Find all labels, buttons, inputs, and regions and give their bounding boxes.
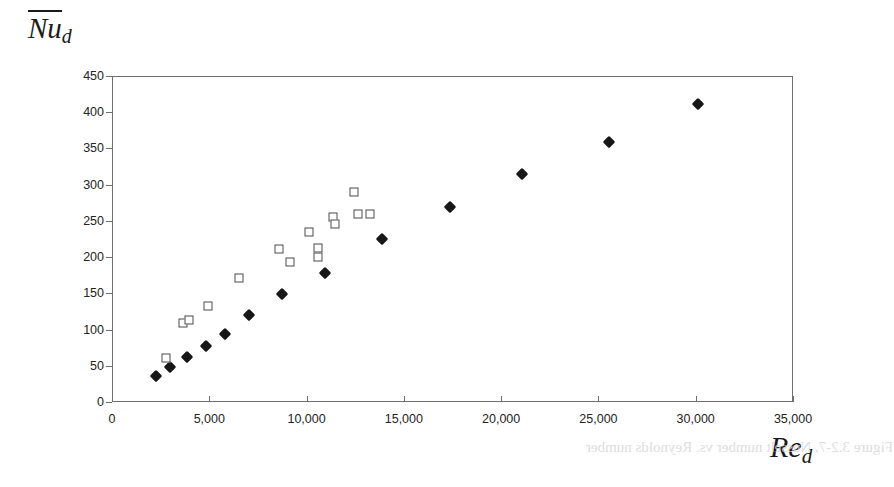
y-tick-label: 50 [90,359,104,373]
x-tick-mark [209,396,210,402]
x-tick-mark [112,396,113,402]
y-tick-mark [106,221,112,222]
y-tick-label: 150 [83,286,104,300]
y-axis-tick-labels: 050100150200250300350400450 [60,0,104,487]
x-tick-label: 0 [109,412,116,426]
y-tick-mark [106,257,112,258]
x-tick-label: 35,000 [774,412,812,426]
x-tick-label: 5,000 [194,412,225,426]
data-point-open-square [330,220,339,229]
x-tick-label: 20,000 [482,412,520,426]
data-point-open-square [365,209,374,218]
y-tick-mark [106,185,112,186]
x-tick-mark [696,396,697,402]
scatter-chart-figure: Nud Red Figure 3.2-7, Nusselt number vs.… [0,0,894,487]
y-tick-label: 350 [83,141,104,155]
x-tick-label: 15,000 [385,412,423,426]
data-point-open-square [314,243,323,252]
y-tick-mark [106,293,112,294]
data-point-filled-diamond [150,370,163,383]
data-point-filled-diamond [443,201,456,214]
x-tick-label: 10,000 [287,412,325,426]
data-point-filled-diamond [375,233,388,246]
y-tick-label: 200 [83,250,104,264]
x-tick-label: 30,000 [677,412,715,426]
data-point-filled-diamond [243,308,256,321]
y-tick-mark [106,330,112,331]
data-point-open-square [161,354,170,363]
data-point-open-square [275,244,284,253]
x-axis-label-base: Re [770,430,802,463]
y-tick-label: 250 [83,214,104,228]
y-tick-mark [106,112,112,113]
data-point-open-square [314,253,323,262]
y-tick-mark [106,402,112,403]
x-axis-label-subscript: d [802,444,813,468]
data-point-open-square [304,228,313,237]
data-point-filled-diamond [219,328,232,341]
y-tick-mark [106,366,112,367]
data-point-filled-diamond [181,350,194,363]
y-tick-label: 100 [83,323,104,337]
y-tick-mark [106,76,112,77]
data-point-open-square [235,274,244,283]
data-point-open-square [204,301,213,310]
y-axis-label-base: Nu [28,10,62,43]
data-point-filled-diamond [515,168,528,181]
y-tick-label: 400 [83,105,104,119]
x-tick-mark [598,396,599,402]
plot-area: Figure 3.2-7, Nusselt number vs. Reynold… [112,76,793,402]
data-point-open-square [286,257,295,266]
data-point-open-square [184,316,193,325]
data-point-open-square [354,209,363,218]
data-point-filled-diamond [276,287,289,300]
x-tick-mark [404,396,405,402]
x-tick-mark [307,396,308,402]
data-point-open-square [350,188,359,197]
y-tick-label: 0 [97,395,104,409]
data-point-filled-diamond [603,136,616,149]
data-point-filled-diamond [200,339,213,352]
data-point-filled-diamond [691,97,704,110]
x-tick-mark [501,396,502,402]
x-tick-mark [793,396,794,402]
y-tick-label: 300 [83,178,104,192]
x-axis-label: Red [770,432,812,467]
x-tick-label: 25,000 [579,412,617,426]
y-tick-mark [106,148,112,149]
y-tick-label: 450 [83,69,104,83]
data-point-filled-diamond [319,266,332,279]
